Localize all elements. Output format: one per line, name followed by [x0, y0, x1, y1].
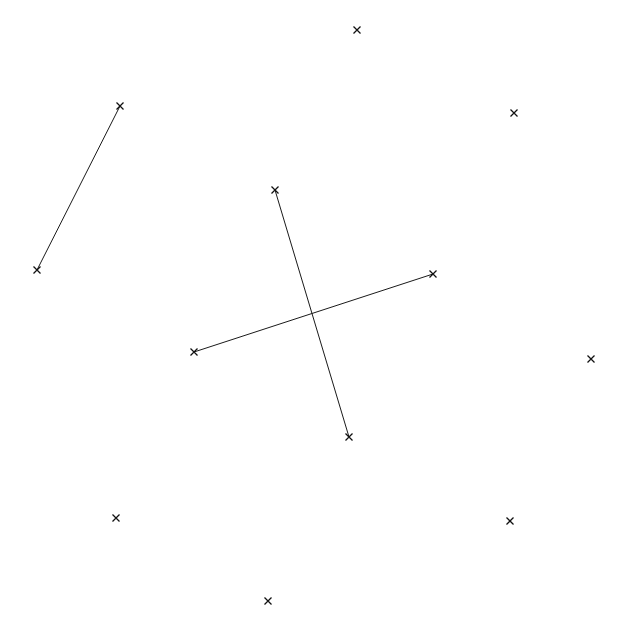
plot-canvas: [0, 0, 630, 625]
scatter-plot-svg: [0, 0, 630, 625]
